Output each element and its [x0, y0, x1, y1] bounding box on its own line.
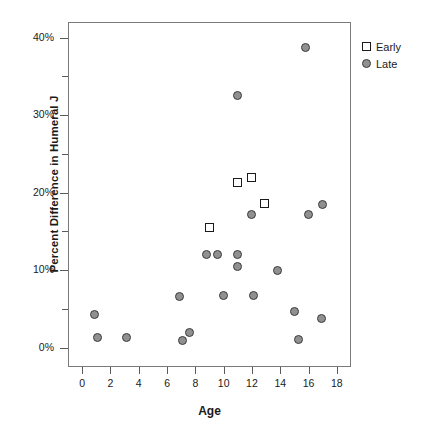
data-point-early	[233, 178, 242, 187]
y-tick-label: 0%	[8, 341, 54, 353]
x-tick-label: 12	[240, 377, 264, 389]
data-point-early	[205, 223, 214, 232]
y-tick-major	[60, 270, 68, 271]
x-tick-label: 4	[127, 377, 151, 389]
scatter-chart: 0%10%20%30%40% 024681012141618 Percent D…	[0, 0, 430, 431]
x-tick-label: 0	[70, 377, 94, 389]
data-point-late	[318, 200, 327, 209]
y-tick-minor	[62, 154, 68, 155]
square-marker-icon	[362, 42, 371, 51]
y-tick-major	[60, 348, 68, 349]
x-tick-major	[195, 367, 196, 374]
circle-marker-icon	[362, 59, 371, 68]
y-tick-major	[60, 38, 68, 39]
y-tick-minor	[62, 76, 68, 77]
y-tick-minor	[62, 309, 68, 310]
x-tick-major	[280, 367, 281, 374]
x-tick-label: 8	[183, 377, 207, 389]
x-tick-major	[252, 367, 253, 374]
data-point-late	[249, 291, 258, 300]
y-axis-title: Percent Difference in Humeral J	[48, 34, 60, 334]
data-point-late	[304, 210, 313, 219]
legend-label: Late	[376, 58, 397, 70]
data-point-late	[317, 314, 326, 323]
x-tick-label: 18	[325, 377, 349, 389]
x-tick-label: 2	[98, 377, 122, 389]
x-tick-label: 6	[155, 377, 179, 389]
x-axis-title: Age	[68, 404, 351, 418]
x-tick-major	[337, 367, 338, 374]
y-tick-minor	[62, 231, 68, 232]
x-tick-major	[167, 367, 168, 374]
x-tick-label: 14	[268, 377, 292, 389]
y-tick-major	[60, 115, 68, 116]
legend: EarlyLate	[362, 38, 401, 72]
x-tick-major	[139, 367, 140, 374]
data-point-late	[185, 328, 194, 337]
legend-item-late: Late	[362, 55, 401, 72]
y-tick-major	[60, 193, 68, 194]
x-tick-label: 10	[212, 377, 236, 389]
data-point-early	[260, 199, 269, 208]
data-point-late	[122, 333, 131, 342]
x-tick-label: 16	[297, 377, 321, 389]
x-tick-major	[309, 367, 310, 374]
plot-area	[68, 22, 351, 367]
legend-item-early: Early	[362, 38, 401, 55]
x-tick-major	[224, 367, 225, 374]
legend-label: Early	[376, 41, 401, 53]
x-tick-major	[110, 367, 111, 374]
data-point-early	[247, 173, 256, 182]
x-tick-major	[82, 367, 83, 374]
